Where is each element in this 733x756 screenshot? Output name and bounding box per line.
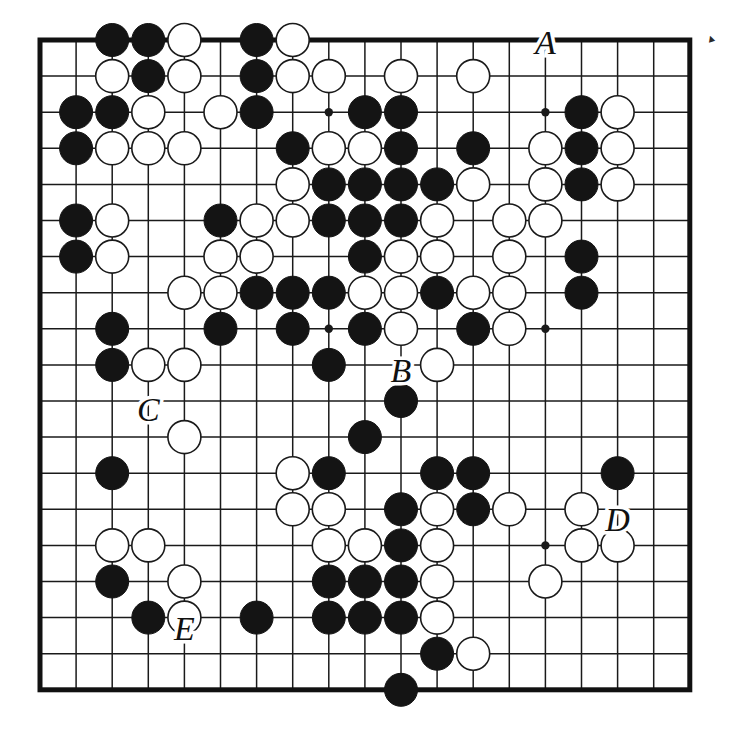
white-stone[interactable]: [96, 240, 129, 273]
black-stone[interactable]: [348, 168, 381, 201]
black-stone[interactable]: [240, 276, 273, 309]
white-stone[interactable]: [601, 168, 634, 201]
black-stone[interactable]: [312, 204, 345, 237]
black-stone[interactable]: [204, 204, 237, 237]
black-stone[interactable]: [312, 565, 345, 598]
white-stone[interactable]: [132, 348, 165, 381]
black-stone[interactable]: [60, 96, 93, 129]
black-stone[interactable]: [276, 132, 309, 165]
white-stone[interactable]: [132, 96, 165, 129]
black-stone[interactable]: [385, 565, 418, 598]
black-stone[interactable]: [312, 348, 345, 381]
white-stone[interactable]: [457, 637, 490, 670]
black-stone[interactable]: [565, 96, 598, 129]
white-stone[interactable]: [421, 601, 454, 634]
black-stone[interactable]: [96, 96, 129, 129]
black-stone[interactable]: [565, 168, 598, 201]
white-stone[interactable]: [312, 493, 345, 526]
white-stone[interactable]: [312, 529, 345, 562]
white-stone[interactable]: [385, 240, 418, 273]
white-stone[interactable]: [421, 240, 454, 273]
white-stone[interactable]: [276, 457, 309, 490]
white-stone[interactable]: [240, 204, 273, 237]
black-stone[interactable]: [385, 673, 418, 706]
white-stone[interactable]: [529, 168, 562, 201]
black-stone[interactable]: [385, 529, 418, 562]
white-stone[interactable]: [421, 565, 454, 598]
black-stone[interactable]: [348, 204, 381, 237]
black-stone[interactable]: [312, 457, 345, 490]
white-stone[interactable]: [240, 240, 273, 273]
black-stone[interactable]: [96, 457, 129, 490]
white-stone[interactable]: [493, 493, 526, 526]
black-stone[interactable]: [312, 168, 345, 201]
black-stone[interactable]: [60, 240, 93, 273]
white-stone[interactable]: [204, 276, 237, 309]
black-stone[interactable]: [457, 132, 490, 165]
black-stone[interactable]: [457, 312, 490, 345]
black-stone[interactable]: [348, 96, 381, 129]
white-stone[interactable]: [529, 565, 562, 598]
black-stone[interactable]: [96, 565, 129, 598]
black-stone[interactable]: [565, 240, 598, 273]
white-stone[interactable]: [529, 132, 562, 165]
black-stone[interactable]: [240, 96, 273, 129]
black-stone[interactable]: [60, 204, 93, 237]
white-stone[interactable]: [457, 60, 490, 93]
white-stone[interactable]: [385, 60, 418, 93]
black-stone[interactable]: [421, 637, 454, 670]
black-stone[interactable]: [240, 60, 273, 93]
white-stone[interactable]: [421, 529, 454, 562]
white-stone[interactable]: [276, 60, 309, 93]
black-stone[interactable]: [96, 312, 129, 345]
white-stone[interactable]: [385, 312, 418, 345]
white-stone[interactable]: [601, 96, 634, 129]
white-stone[interactable]: [493, 276, 526, 309]
white-stone[interactable]: [96, 132, 129, 165]
black-stone[interactable]: [240, 24, 273, 57]
go-board-canvas[interactable]: AABBCCDDEE: [0, 0, 733, 756]
white-stone[interactable]: [493, 204, 526, 237]
white-stone[interactable]: [204, 240, 237, 273]
black-stone[interactable]: [421, 168, 454, 201]
white-stone[interactable]: [276, 204, 309, 237]
black-stone[interactable]: [385, 132, 418, 165]
white-stone[interactable]: [132, 529, 165, 562]
white-stone[interactable]: [204, 96, 237, 129]
black-stone[interactable]: [276, 276, 309, 309]
white-stone[interactable]: [132, 132, 165, 165]
black-stone[interactable]: [385, 96, 418, 129]
black-stone[interactable]: [385, 601, 418, 634]
white-stone[interactable]: [493, 312, 526, 345]
black-stone[interactable]: [240, 601, 273, 634]
white-stone[interactable]: [565, 529, 598, 562]
white-stone[interactable]: [312, 132, 345, 165]
white-stone[interactable]: [276, 493, 309, 526]
white-stone[interactable]: [168, 24, 201, 57]
white-stone[interactable]: [96, 204, 129, 237]
black-stone[interactable]: [132, 60, 165, 93]
black-stone[interactable]: [385, 204, 418, 237]
white-stone[interactable]: [96, 529, 129, 562]
white-stone[interactable]: [421, 204, 454, 237]
white-stone[interactable]: [457, 276, 490, 309]
white-stone[interactable]: [168, 276, 201, 309]
white-stone[interactable]: [276, 168, 309, 201]
black-stone[interactable]: [60, 132, 93, 165]
black-stone[interactable]: [457, 493, 490, 526]
black-stone[interactable]: [457, 457, 490, 490]
black-stone[interactable]: [204, 312, 237, 345]
black-stone[interactable]: [565, 276, 598, 309]
white-stone[interactable]: [168, 421, 201, 454]
white-stone[interactable]: [168, 565, 201, 598]
black-stone[interactable]: [385, 168, 418, 201]
white-stone[interactable]: [565, 493, 598, 526]
white-stone[interactable]: [168, 60, 201, 93]
black-stone[interactable]: [132, 601, 165, 634]
white-stone[interactable]: [493, 240, 526, 273]
black-stone[interactable]: [96, 24, 129, 57]
black-stone[interactable]: [385, 493, 418, 526]
white-stone[interactable]: [168, 348, 201, 381]
white-stone[interactable]: [276, 24, 309, 57]
white-stone[interactable]: [457, 168, 490, 201]
